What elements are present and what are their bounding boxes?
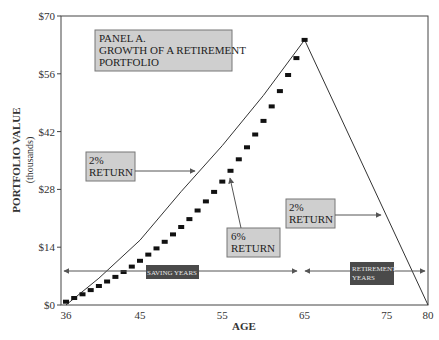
data-marker xyxy=(80,292,86,296)
data-marker xyxy=(302,38,308,42)
retirement-years-span: RETIREMENT YEARS xyxy=(305,262,425,285)
y-axis-subtitle: (thousands) xyxy=(24,137,36,184)
y-tick-label: $0 xyxy=(44,299,56,311)
data-marker xyxy=(112,275,118,279)
x-tick-label: 55 xyxy=(217,309,229,321)
annotation-6pct: 6% RETURN xyxy=(227,178,280,257)
y-axis-ticks: $0$14$28$42$56$70 xyxy=(39,10,62,311)
retirement-years-label-line2: YEARS xyxy=(352,274,375,282)
data-marker xyxy=(244,145,250,149)
panel-title-line2: GROWTH OF A RETIREMENT xyxy=(99,44,246,56)
data-marker xyxy=(203,199,209,203)
y-axis-title: PORTFOLIO VALUE xyxy=(10,107,22,212)
data-marker xyxy=(228,169,234,173)
data-marker xyxy=(252,133,258,137)
retirement-years-label-line1: RETIREMENT xyxy=(352,265,397,273)
x-tick-label: 75 xyxy=(381,309,393,321)
panel-title-line3: PORTFOLIO xyxy=(99,56,159,68)
y-tick-label: $56 xyxy=(39,68,56,80)
data-marker xyxy=(71,296,77,300)
data-marker xyxy=(261,119,267,123)
data-marker xyxy=(186,217,192,221)
annotation-2pct-saving-line2: RETURN xyxy=(89,166,133,178)
annotation-6pct-line1: 6% xyxy=(231,230,246,242)
data-marker xyxy=(269,104,275,108)
data-marker xyxy=(129,265,135,269)
y-tick-label: $28 xyxy=(39,183,56,195)
annotation-2pct-retirement: 2% RETURN xyxy=(286,199,381,228)
data-marker xyxy=(162,240,168,244)
x-tick-label: 65 xyxy=(299,309,311,321)
y-tick-label: $70 xyxy=(39,10,56,22)
data-marker xyxy=(154,246,160,250)
data-marker xyxy=(170,232,176,236)
data-marker xyxy=(285,73,291,77)
data-marker xyxy=(145,253,151,257)
annotation-2pct-retirement-line1: 2% xyxy=(289,201,304,213)
saving-years-span: SAVING YEARS xyxy=(64,265,297,279)
arrow-icon xyxy=(230,178,241,228)
data-marker xyxy=(236,157,242,161)
annotation-2pct-saving: 2% RETURN xyxy=(86,152,195,181)
x-tick-label: 80 xyxy=(423,309,435,321)
data-marker xyxy=(277,89,283,93)
panel-title-box: PANEL A. GROWTH OF A RETIREMENT PORTFOLI… xyxy=(95,30,246,71)
data-marker xyxy=(195,209,201,213)
y-tick-label: $14 xyxy=(39,241,56,253)
data-marker xyxy=(88,288,94,292)
annotation-6pct-line2: RETURN xyxy=(231,242,275,254)
data-marker xyxy=(293,56,299,60)
data-marker xyxy=(178,225,184,229)
data-marker xyxy=(137,259,143,263)
annotation-2pct-saving-line1: 2% xyxy=(89,154,104,166)
panel-title-line1: PANEL A. xyxy=(99,32,146,44)
data-marker xyxy=(96,284,102,288)
retirement-portfolio-chart: $0$14$28$42$56$70 364555657580 AGE PORTF… xyxy=(0,0,439,340)
data-marker xyxy=(211,190,217,194)
data-marker xyxy=(63,300,69,304)
saving-years-label: SAVING YEARS xyxy=(147,269,197,277)
y-tick-label: $42 xyxy=(39,126,56,138)
data-marker xyxy=(219,180,225,184)
x-axis-title: AGE xyxy=(232,320,256,332)
x-tick-label: 45 xyxy=(135,309,147,321)
data-marker xyxy=(104,280,110,284)
annotation-2pct-retirement-line2: RETURN xyxy=(289,213,333,225)
x-tick-label: 36 xyxy=(61,309,73,321)
